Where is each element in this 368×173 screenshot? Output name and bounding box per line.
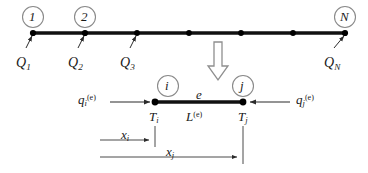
- fem-discretization-figure: [0, 0, 368, 173]
- element-flux-label-qi: qi(e): [78, 93, 96, 108]
- node-circle-label-1: 1: [29, 10, 36, 23]
- dimension-label-xj: xj: [166, 145, 174, 160]
- element-flux-label-qj: qj(e): [296, 93, 314, 108]
- flux-label-Q3: Q3: [120, 56, 135, 72]
- block-arrow-down-icon: [208, 42, 228, 80]
- node-circle-label-2: 2: [81, 10, 88, 23]
- node-circle-label-N: N: [340, 10, 349, 23]
- temperature-label-Ti: Ti: [149, 110, 159, 125]
- flux-label-Q1: Q1: [16, 56, 31, 72]
- flux-leader-arrows: [26, 36, 344, 48]
- flux-label-QN: QN: [324, 56, 340, 72]
- element-label-e: e: [196, 88, 202, 101]
- element-length-label: L(e): [186, 110, 202, 123]
- temperature-label-Tj: Tj: [238, 110, 248, 125]
- element-node-label-j: j: [240, 79, 244, 92]
- element-node-label-i: i: [165, 79, 169, 92]
- global-node-circles: [23, 7, 356, 28]
- flux-label-Q2: Q2: [68, 56, 83, 72]
- dimension-label-xi: xi: [121, 128, 129, 143]
